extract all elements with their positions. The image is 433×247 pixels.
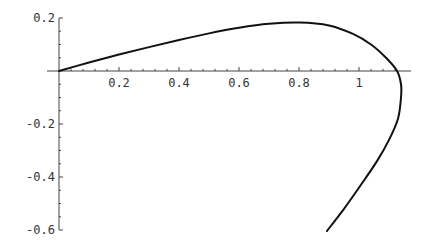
y-tick-label: -0.4	[26, 170, 55, 184]
y-tick-label: -0.6	[26, 223, 55, 237]
data-curve	[59, 22, 401, 231]
x-tick-label: 0.8	[288, 76, 310, 90]
y-tick-label: 0.2	[33, 11, 55, 25]
x-tick-label: 1	[355, 76, 362, 90]
chart-plot: 0.20.40.60.81 0.2-0.2-0.4-0.6	[0, 0, 433, 247]
x-tick-label: 0.4	[168, 76, 190, 90]
x-tick-label: 0.2	[108, 76, 130, 90]
y-tick-labels: 0.2-0.2-0.4-0.6	[26, 11, 55, 237]
x-tick-label: 0.6	[228, 76, 250, 90]
y-axis	[59, 18, 63, 230]
x-axis	[47, 67, 411, 71]
y-tick-label: -0.2	[26, 117, 55, 131]
x-tick-labels: 0.20.40.60.81	[108, 76, 362, 90]
